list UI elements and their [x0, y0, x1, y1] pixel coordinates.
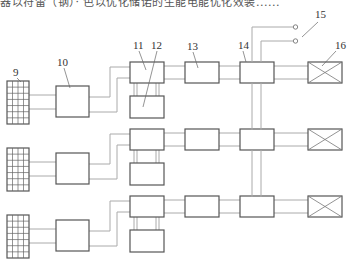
label-11: 11	[133, 39, 144, 51]
label-14: 14	[238, 39, 250, 51]
branch-row-3	[7, 196, 342, 258]
block-13	[185, 129, 219, 150]
label-9: 9	[13, 66, 19, 78]
label-16: 16	[335, 39, 347, 51]
load-crossed-box-icon	[308, 62, 342, 83]
solar-panel-icon	[7, 215, 29, 258]
block-14	[240, 196, 274, 217]
label-12: 12	[151, 39, 162, 51]
terminal-1	[293, 25, 297, 29]
block-13	[185, 196, 219, 217]
system-diagram: 9 10 11 12 13 14 15 16	[0, 0, 353, 267]
block-10	[56, 86, 89, 117]
solar-panel-icon	[7, 148, 29, 191]
block-10	[56, 220, 89, 251]
load-crossed-box-icon	[308, 129, 342, 150]
block-14	[240, 62, 274, 83]
block-11	[130, 196, 164, 217]
block-11	[130, 129, 164, 150]
solar-panel-icon	[7, 81, 29, 124]
terminal-2	[293, 39, 297, 43]
label-15: 15	[315, 8, 327, 20]
load-crossed-box-icon	[308, 196, 342, 217]
block-13	[185, 62, 219, 83]
block-11	[130, 62, 164, 83]
block-10	[56, 153, 89, 184]
label-13: 13	[187, 40, 199, 52]
block-14	[240, 129, 274, 150]
label-10: 10	[57, 56, 69, 68]
block-12	[130, 96, 164, 118]
block-12	[130, 230, 164, 252]
branch-row-1	[7, 62, 342, 124]
branch-row-2	[7, 129, 342, 191]
output-terminals	[252, 22, 318, 62]
block-12	[130, 163, 164, 185]
